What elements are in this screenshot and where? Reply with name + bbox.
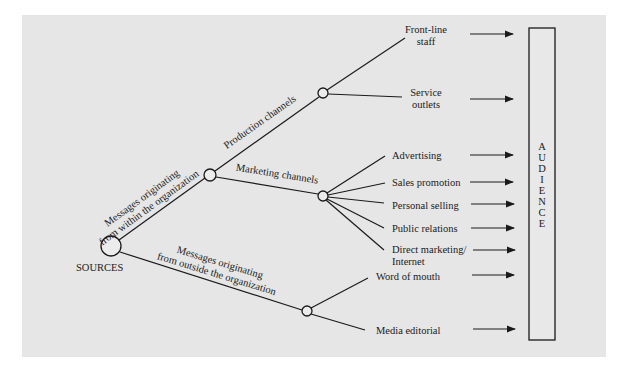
internal-branch-label: Messages originating from within the org…: [90, 158, 201, 248]
production-channels-node: [318, 88, 328, 98]
target-word-of-mouth: Word of mouth: [376, 271, 441, 282]
target-service-outlets-l2: outlets: [412, 99, 440, 110]
target-advertising: Advertising: [392, 150, 442, 161]
audience-label: A U D I E N C E: [538, 141, 546, 229]
svg-text:Production channels: Production channels: [222, 93, 298, 151]
target-direct-marketing-l2: Internet: [392, 256, 425, 267]
target-front-line-staff-l2: staff: [417, 36, 436, 47]
production-channels-label: Production channels: [222, 93, 298, 151]
sources-label: SOURCES: [76, 262, 123, 273]
target-direct-marketing-l1: Direct marketing/: [392, 244, 466, 255]
target-personal-selling: Personal selling: [392, 200, 460, 211]
target-public-relations: Public relations: [392, 223, 458, 234]
svg-text:D: D: [538, 163, 546, 174]
svg-text:from within the organization: from within the organization: [97, 167, 201, 247]
svg-text:C: C: [538, 207, 545, 218]
external-messages-node: [302, 306, 312, 316]
target-front-line-staff-l1: Front-line: [405, 24, 447, 35]
marketing-channels-node: [318, 191, 328, 201]
internal-messages-node: [204, 169, 216, 181]
arrows-to-audience: [470, 34, 515, 329]
communication-channels-diagram: SOURCES Messages originating from within…: [0, 0, 624, 370]
svg-text:U: U: [538, 152, 546, 163]
svg-text:N: N: [538, 196, 546, 207]
target-media-editorial: Media editorial: [376, 325, 441, 336]
svg-text:E: E: [539, 218, 545, 229]
svg-text:E: E: [539, 185, 545, 196]
target-sales-promotion: Sales promotion: [392, 177, 461, 188]
target-service-outlets-l1: Service: [410, 87, 442, 98]
svg-text:A: A: [538, 141, 546, 152]
external-branch-label: Messages originating from outside the or…: [156, 239, 282, 297]
svg-text:I: I: [540, 174, 544, 185]
